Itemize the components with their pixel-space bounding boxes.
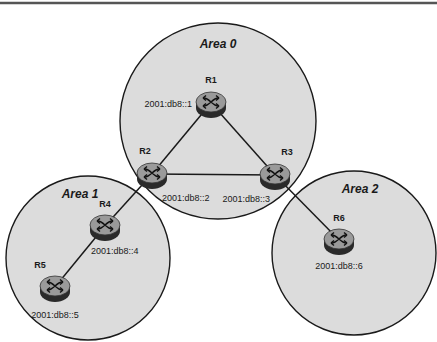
area-label: Area 0 — [199, 37, 237, 51]
router-address: 2001:db8::1 — [144, 99, 192, 109]
area-area2: Area 2 — [272, 171, 436, 335]
router-address: 2001:db8::6 — [315, 261, 363, 271]
router-label: R3 — [281, 147, 293, 157]
router-address: 2001:db8::4 — [91, 246, 139, 256]
area-label: Area 1 — [61, 187, 99, 201]
ospf-topology-diagram: Area 0Area 1Area 2 R12001:db8::1R22001:d… — [0, 0, 437, 342]
router-label: R4 — [99, 199, 111, 209]
area-area0: Area 0 — [120, 23, 316, 219]
router-address: 2001:db8::5 — [31, 310, 79, 320]
router-label: R5 — [34, 260, 46, 270]
router-label: R1 — [205, 75, 217, 85]
area-label: Area 2 — [341, 182, 379, 196]
router-address: 2001:db8::2 — [162, 193, 210, 203]
areas-layer: Area 0Area 1Area 2 — [6, 23, 436, 340]
router-label: R6 — [333, 213, 345, 223]
link-r2-r3 — [152, 174, 275, 175]
router-label: R2 — [139, 146, 151, 156]
router-address: 2001:db8::3 — [222, 194, 270, 204]
area-circle — [120, 23, 316, 219]
